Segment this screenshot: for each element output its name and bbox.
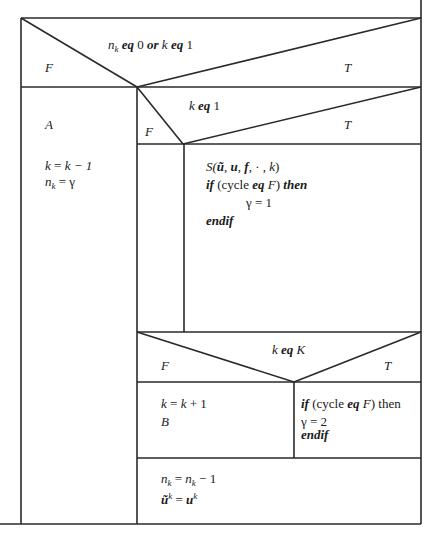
block-a-line2: nk = γ	[45, 174, 75, 194]
decision3-left-diagonal	[137, 332, 294, 382]
arg-u: u	[231, 159, 238, 174]
decision2-left-diagonal	[137, 87, 183, 144]
decision1-condition: nk eq 0 or k eq 1	[108, 37, 193, 57]
minus-one: − 1	[196, 471, 216, 486]
op-eq: =	[54, 158, 61, 173]
if-cycle-line-2: if (cycle eq F) then	[301, 396, 401, 411]
cond-open: (cycle	[214, 177, 252, 192]
var-k: k	[189, 98, 195, 113]
val-K: K	[297, 342, 306, 357]
decision2-right-diagonal	[183, 87, 421, 144]
diagram-lines	[0, 0, 433, 537]
expr: k − 1	[65, 158, 93, 173]
sub-k: k	[115, 44, 119, 54]
val-1: 1	[214, 98, 221, 113]
decision3-true-label: T	[384, 358, 391, 373]
var-k: k	[162, 37, 168, 52]
block-b-label: B	[161, 414, 169, 429]
smoother-call: S(ũ, u, f, · , k)	[206, 159, 279, 174]
close-paren: )	[275, 159, 279, 174]
final-line1: nk = nk − 1	[161, 471, 216, 491]
final-line2: ũk = uk	[161, 489, 197, 507]
kw-then: then	[283, 177, 307, 192]
func-s: S(	[206, 159, 217, 174]
op-eq: =	[172, 471, 186, 486]
decision2-true-label: T	[344, 117, 351, 132]
cond-close: ) then	[371, 396, 401, 411]
kw-eq: eq	[122, 37, 134, 52]
kw-if: if	[301, 396, 309, 411]
block-a-label: A	[45, 117, 53, 132]
assign-gamma-1: γ = 1	[246, 195, 272, 210]
kw-eq: eq	[198, 98, 210, 113]
assign-gamma: = γ	[59, 174, 75, 189]
decision3-right-diagonal	[294, 332, 421, 382]
decision1-false-label: F	[45, 60, 53, 75]
kw-eq: eq	[171, 37, 183, 52]
if-cycle-line-1: if (cycle eq F) then	[206, 177, 307, 192]
decision2-false-label: F	[145, 124, 153, 139]
val-0: 0	[137, 37, 144, 52]
sub-k: k	[52, 181, 56, 191]
decision3-false-label: F	[161, 358, 169, 373]
kw-eq: eq	[347, 396, 359, 411]
plus-one: + 1	[186, 396, 206, 411]
op-eq: =	[172, 492, 186, 507]
kw-if: if	[206, 177, 214, 192]
kw-eq: eq	[281, 342, 293, 357]
kw-or: or	[147, 37, 159, 52]
decision3-condition: k eq K	[272, 342, 305, 357]
val-1: 1	[186, 37, 193, 52]
cond-var: F	[360, 396, 371, 411]
cond-open: (cycle	[309, 396, 347, 411]
arg-u-tilde: ũ	[217, 159, 224, 174]
sep: , · ,	[249, 159, 270, 174]
block-a-line1: k = k − 1	[45, 158, 92, 173]
sup-k: k	[193, 491, 197, 501]
endif-2: endif	[301, 427, 328, 442]
block-b-line1: k = k + 1	[161, 396, 207, 411]
op-eq: =	[167, 396, 181, 411]
var-k: k	[45, 158, 51, 173]
cond-var: F	[265, 177, 276, 192]
kw-eq: eq	[252, 177, 264, 192]
decision2-condition: k eq 1	[189, 98, 220, 113]
endif-1: endif	[206, 213, 233, 228]
var-k: k	[272, 342, 278, 357]
decision1-true-label: T	[344, 60, 351, 75]
